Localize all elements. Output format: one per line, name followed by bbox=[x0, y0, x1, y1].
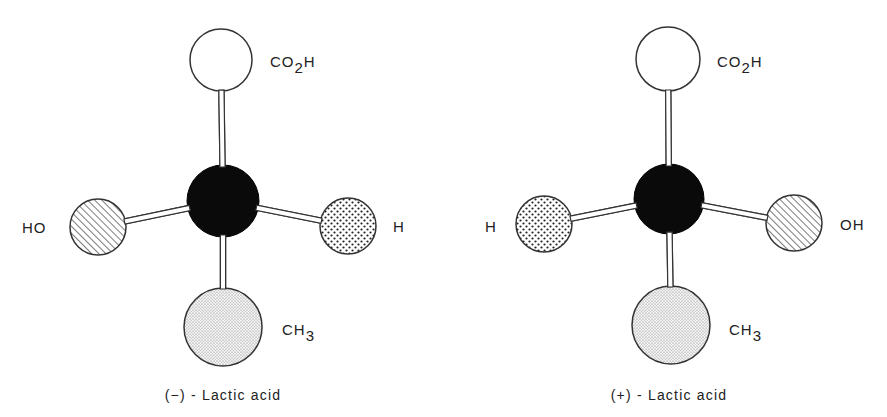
label-ho: HO bbox=[22, 219, 47, 236]
label-oh: OH bbox=[840, 216, 865, 233]
atom-ch3-sphere bbox=[184, 288, 262, 366]
atom-co2h-sphere bbox=[190, 29, 252, 91]
label-h: H bbox=[485, 218, 497, 235]
label-h: H bbox=[393, 218, 405, 235]
atom-oh-sphere bbox=[766, 195, 822, 251]
lactic-acid-diagram: CO2HHOHCH3(−) - Lactic acid CO2HHOHCH3(+… bbox=[0, 0, 887, 417]
molecule-caption: (−) - Lactic acid bbox=[165, 387, 282, 403]
molecule-plus-lactic-acid: CO2HHOHCH3(+) - Lactic acid bbox=[485, 27, 865, 403]
molecule-minus-lactic-acid: CO2HHOHCH3(−) - Lactic acid bbox=[22, 29, 405, 403]
atom-h-sphere bbox=[320, 198, 376, 254]
molecule-caption: (+) - Lactic acid bbox=[611, 387, 728, 403]
label-co2h: CO2H bbox=[717, 53, 763, 76]
label-ch3: CH3 bbox=[282, 321, 315, 344]
atom-co2h-sphere bbox=[636, 27, 700, 91]
atom-ch3-sphere bbox=[632, 286, 710, 364]
central-carbon-atom bbox=[634, 164, 704, 234]
label-co2h: CO2H bbox=[270, 53, 316, 76]
atom-h-sphere bbox=[516, 196, 572, 252]
central-carbon-atom bbox=[187, 165, 259, 237]
label-ch3: CH3 bbox=[729, 321, 762, 344]
atom-ho-sphere bbox=[70, 199, 126, 255]
